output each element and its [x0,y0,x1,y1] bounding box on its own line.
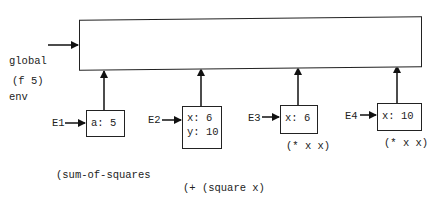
frame-e1-body: (sum-of-squares (+ a 1) (* a 2)) [56,145,151,199]
frame-e2-body: (+ (square x) (square y)) [183,158,271,199]
frame-e4-label: E4 [345,110,358,122]
global-env-label: global env [9,31,47,115]
global-label-line2: env [9,91,47,103]
frame-e1: a: 5 [86,110,125,137]
frame-e3: x: 6 [280,105,318,134]
frame-e1-label: E1 [52,117,65,129]
frame-e2: x: 6 y: 10 [182,106,222,149]
global-environment-frame [79,16,422,71]
frame-e3-binding: x: 6 [285,112,310,124]
frame-e4-body: (* x x) [384,137,428,149]
frame-e2-binding-y: y: 10 [187,126,219,138]
frame-e2-label: E2 [148,114,161,126]
frame-e2-binding-x: x: 6 [187,112,212,124]
body-line: (sum-of-squares [56,169,151,181]
body-line: (+ (square x) [183,182,271,194]
frame-e4-binding: x: 10 [382,110,414,122]
frame-e3-label: E3 [248,112,261,124]
global-label-line1: global [9,55,47,67]
frame-e1-binding: a: 5 [91,117,116,129]
frame-e3-body: (* x x) [286,140,330,152]
call-expression: (f 5) [12,75,44,87]
frame-e4: x: 10 [377,103,422,131]
